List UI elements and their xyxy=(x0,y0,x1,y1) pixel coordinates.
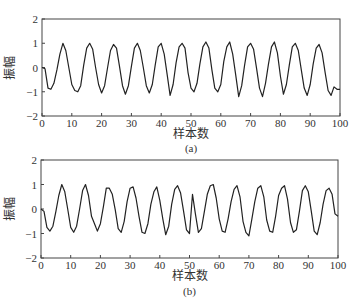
x-tick-label: 10 xyxy=(66,117,78,129)
plot-frame xyxy=(42,19,340,116)
x-tick-label: 70 xyxy=(243,259,255,271)
x-tick-label: 80 xyxy=(273,259,285,271)
y-axis-label: 振幅 xyxy=(2,56,17,80)
y-tick-label: −1 xyxy=(25,228,37,240)
x-tick-label: 40 xyxy=(156,117,168,129)
x-tick-label: 60 xyxy=(215,117,227,129)
x-tick-label: 70 xyxy=(245,117,257,129)
y-tick-label: 2 xyxy=(33,13,39,25)
y-tick-label: −2 xyxy=(25,252,37,264)
x-tick-label: 90 xyxy=(303,259,315,271)
x-tick-label: 60 xyxy=(214,259,226,271)
y-tick-label: 1 xyxy=(33,37,39,49)
x-axis-label: 样本数 xyxy=(172,268,208,283)
panel-caption: (a) xyxy=(185,142,198,155)
plot-frame xyxy=(41,160,338,258)
y-tick-label: −2 xyxy=(26,110,38,122)
y-tick-label: 0 xyxy=(32,203,38,215)
y-tick-label: 1 xyxy=(32,179,38,191)
x-tick-label: 10 xyxy=(65,259,77,271)
x-axis-label: 样本数 xyxy=(173,126,209,141)
y-axis-label: 振幅 xyxy=(2,197,17,221)
x-tick-label: 100 xyxy=(332,117,349,129)
series-line xyxy=(42,42,340,97)
x-tick-label: 30 xyxy=(125,259,137,271)
x-tick-label: 20 xyxy=(96,117,108,129)
panel-b: 0102030405060708090100−2−1012样本数振幅(b) xyxy=(2,154,347,298)
x-tick-label: 80 xyxy=(275,117,287,129)
x-tick-label: 30 xyxy=(126,117,138,129)
chart-figure: 0102030405060708090100−2−1012样本数振幅(a) 01… xyxy=(0,0,355,307)
y-tick-label: 0 xyxy=(33,62,39,74)
y-tick-label: −1 xyxy=(26,86,38,98)
x-tick-label: 100 xyxy=(330,259,347,271)
panel-a: 0102030405060708090100−2−1012样本数振幅(a) xyxy=(2,13,349,155)
panel-caption: (b) xyxy=(183,285,196,298)
x-tick-label: 20 xyxy=(95,259,107,271)
x-tick-label: 40 xyxy=(154,259,166,271)
x-tick-label: 90 xyxy=(305,117,317,129)
x-tick-label: 0 xyxy=(38,259,44,271)
y-tick-label: 2 xyxy=(32,154,38,166)
series-line xyxy=(41,185,338,236)
x-tick-label: 0 xyxy=(39,117,45,129)
